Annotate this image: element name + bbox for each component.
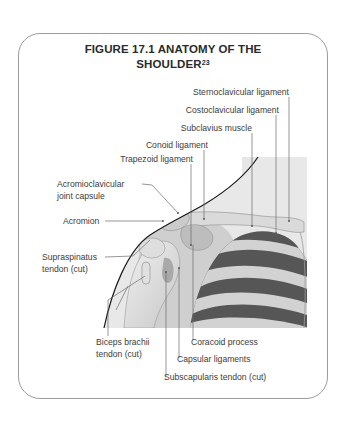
label-acromioclavicular-joint-capsule: Acromioclavicular joint capsule xyxy=(57,178,124,202)
label-acromion: Acromion xyxy=(63,215,99,227)
label-conoid-ligament: Conoid ligament xyxy=(146,139,208,151)
label-acromioclavicular-line2: joint capsule xyxy=(57,190,124,202)
label-supraspinatus-tendon: Supraspinatus tendon (cut) xyxy=(42,251,97,275)
label-subscapularis-tendon: Subscapularis tendon (cut) xyxy=(164,371,266,383)
label-capsular-ligaments: Capsular ligaments xyxy=(177,353,251,365)
label-supraspinatus-line1: Supraspinatus xyxy=(42,251,97,263)
label-coracoid-process: Coracoid process xyxy=(191,336,258,348)
label-biceps-line2: tendon (cut) xyxy=(96,348,150,360)
label-biceps-brachii-tendon: Biceps brachii tendon (cut) xyxy=(96,336,150,360)
shoulder-anatomy-illustration xyxy=(0,0,347,423)
label-supraspinatus-line2: tendon (cut) xyxy=(42,263,97,275)
label-acromioclavicular-line1: Acromioclavicular xyxy=(57,178,124,190)
label-subclavius-muscle: Subclavius muscle xyxy=(181,122,252,134)
label-biceps-line1: Biceps brachii xyxy=(96,336,150,348)
leader-acromioclavicular xyxy=(142,184,178,213)
label-costoclavicular-ligament: Costoclavicular ligament xyxy=(186,104,279,116)
label-trapezoid-ligament: Trapezoid ligament xyxy=(120,153,193,165)
biceps-tendon-shape xyxy=(142,262,150,284)
label-sternoclavicular-ligament: Sternoclavicular ligament xyxy=(193,86,289,98)
